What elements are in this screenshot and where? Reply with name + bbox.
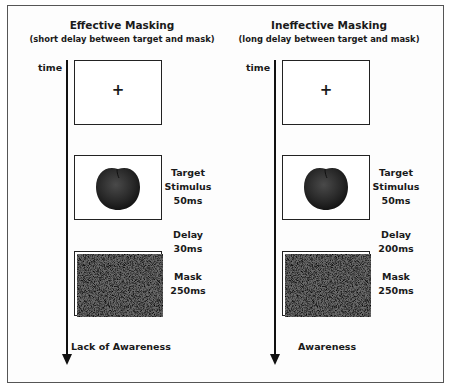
stage-duration: 50ms (361, 194, 431, 208)
stage-label: Target (153, 166, 223, 180)
stage-label: Mask (153, 270, 223, 284)
delay-label: Delay 200ms (361, 228, 431, 256)
time-axis-label: time (38, 62, 62, 73)
mask-box (74, 251, 162, 316)
stage-duration: 30ms (153, 242, 223, 256)
stage-label: Target (361, 166, 431, 180)
target-stimulus-label: Target Stimulus 50ms (361, 166, 431, 208)
delay-label: Delay 30ms (153, 228, 223, 256)
apple-icon (92, 163, 144, 212)
fixation-box: + (74, 60, 162, 125)
stage-label: Delay (153, 228, 223, 242)
stage-duration: 200ms (361, 242, 431, 256)
fixation-cross-icon: + (75, 81, 161, 99)
stage-label: Stimulus (361, 180, 431, 194)
panel-title: Ineffective Masking (264, 19, 394, 31)
mask-label: Mask 250ms (153, 270, 223, 298)
stage-duration: 250ms (361, 284, 431, 298)
outcome-label: Lack of Awareness (71, 341, 171, 352)
target-stimulus-box (282, 155, 370, 220)
mask-label: Mask 250ms (361, 270, 431, 298)
panel-subtitle: (long delay between target and mask) (229, 34, 429, 44)
mask-box (282, 251, 370, 316)
time-arrow-icon (270, 354, 280, 365)
panel-subtitle: (short delay between target and mask) (22, 34, 222, 44)
time-arrow-icon (62, 354, 72, 365)
stage-label: Delay (361, 228, 431, 242)
fixation-cross-icon: + (283, 81, 369, 99)
outcome-label: Awareness (298, 341, 356, 352)
stage-label: Mask (361, 270, 431, 284)
target-stimulus-box (74, 155, 162, 220)
panel-title: Effective Masking (62, 19, 182, 31)
apple-icon (300, 163, 352, 212)
stage-duration: 50ms (153, 194, 223, 208)
stage-duration: 250ms (153, 284, 223, 298)
fixation-box: + (282, 60, 370, 125)
stage-label: Stimulus (153, 180, 223, 194)
target-stimulus-label: Target Stimulus 50ms (153, 166, 223, 208)
time-axis-line (274, 60, 276, 356)
noise-mask-image (77, 254, 163, 317)
noise-mask-image (285, 254, 371, 317)
time-axis-line (66, 60, 68, 356)
time-axis-label: time (246, 62, 270, 73)
